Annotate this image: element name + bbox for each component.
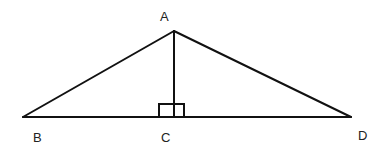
point-label-d: D: [358, 129, 367, 142]
point-label-a: A: [160, 10, 169, 23]
geometry-diagram: A B C D: [0, 0, 374, 150]
segment-ab: [23, 31, 174, 117]
right-angle-marker-left: [159, 104, 174, 117]
triangle-figure: [0, 0, 374, 150]
segment-ad: [174, 31, 351, 117]
point-label-c: C: [161, 131, 170, 144]
point-label-b: B: [33, 131, 42, 144]
right-angle-marker-right: [174, 104, 184, 117]
